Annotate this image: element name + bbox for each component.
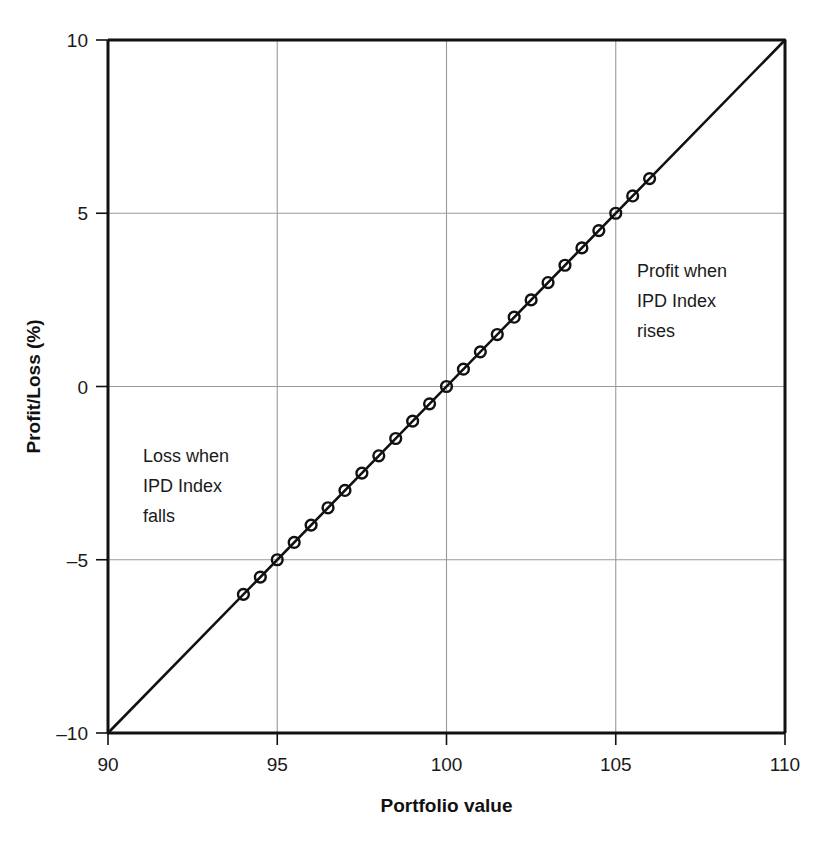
x-tick-label-95: 95 [267,754,288,775]
data-point-marker [306,520,317,531]
data-point-marker [289,537,300,548]
data-point-marker [238,589,249,600]
data-point-marker [272,554,283,565]
data-point-marker [593,225,604,236]
data-point-marker [610,208,621,219]
y-tick-label-neg10: –10 [56,723,88,744]
profit-annotation-line-2: IPD Index [637,291,716,311]
data-point-marker [644,173,655,184]
data-point-marker [373,450,384,461]
data-point-marker [407,416,418,427]
x-tick-label-105: 105 [600,754,632,775]
data-point-marker [509,312,520,323]
loss-annotation-line-3: falls [143,506,175,526]
chart-figure: 10 5 0 –5 –10 90 95 100 105 110 Portfoli… [0,0,828,841]
loss-annotation-line-2: IPD Index [143,476,222,496]
x-axis-title: Portfolio value [381,795,513,816]
data-point-marker [560,260,571,271]
profit-loss-line-chart: 10 5 0 –5 –10 90 95 100 105 110 Portfoli… [0,0,828,841]
y-tick-label-0: 0 [77,377,88,398]
data-point-marker [255,572,266,583]
data-point-marker [543,277,554,288]
loss-annotation-line-1: Loss when [143,446,229,466]
data-point-marker [441,381,452,392]
profit-annotation-line-1: Profit when [637,261,727,281]
data-point-marker [526,294,537,305]
y-tick-label-5: 5 [77,203,88,224]
x-tick-label-90: 90 [97,754,118,775]
profit-annotation-line-3: rises [637,321,675,341]
data-point-marker [340,485,351,496]
data-point-marker [577,243,588,254]
data-point-marker [356,468,367,479]
data-point-marker [390,433,401,444]
data-point-marker [424,398,435,409]
x-tick-label-110: 110 [770,754,800,775]
x-tick-label-100: 100 [431,754,463,775]
data-point-marker [627,191,638,202]
data-point-marker [475,346,486,357]
y-tick-label-10: 10 [67,30,88,51]
y-tick-label-neg5: –5 [67,550,88,571]
data-point-marker [492,329,503,340]
data-point-marker [458,364,469,375]
y-axis-title: Profit/Loss (%) [23,319,44,453]
data-point-marker [323,502,334,513]
